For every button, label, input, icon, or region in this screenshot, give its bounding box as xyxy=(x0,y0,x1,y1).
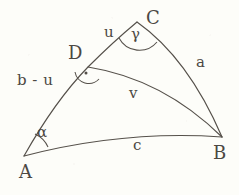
figure-canvas xyxy=(0,0,239,195)
arc-A-to-B xyxy=(24,136,222,156)
arc-C-to-B xyxy=(137,22,222,137)
angle-label-alpha: α xyxy=(37,125,47,140)
vertex-label-B: B xyxy=(213,144,226,162)
vertex-label-A: A xyxy=(19,163,32,181)
vertex-label-C: C xyxy=(146,9,160,27)
side-label-v: v xyxy=(129,86,137,101)
side-label-a: a xyxy=(196,55,205,70)
arc-group xyxy=(24,22,222,156)
arc-D-to-B xyxy=(88,67,222,137)
side-label-c: c xyxy=(133,138,141,153)
side-label-u: u xyxy=(104,25,114,40)
right-angle-dot-icon xyxy=(85,72,88,75)
vertex-label-D: D xyxy=(68,44,82,62)
angle-label-gamma: γ xyxy=(131,27,140,42)
spherical-triangle-figure: A B C D u a v c b - u α γ xyxy=(0,0,239,195)
side-label-b-minus-u: b - u xyxy=(17,73,53,88)
